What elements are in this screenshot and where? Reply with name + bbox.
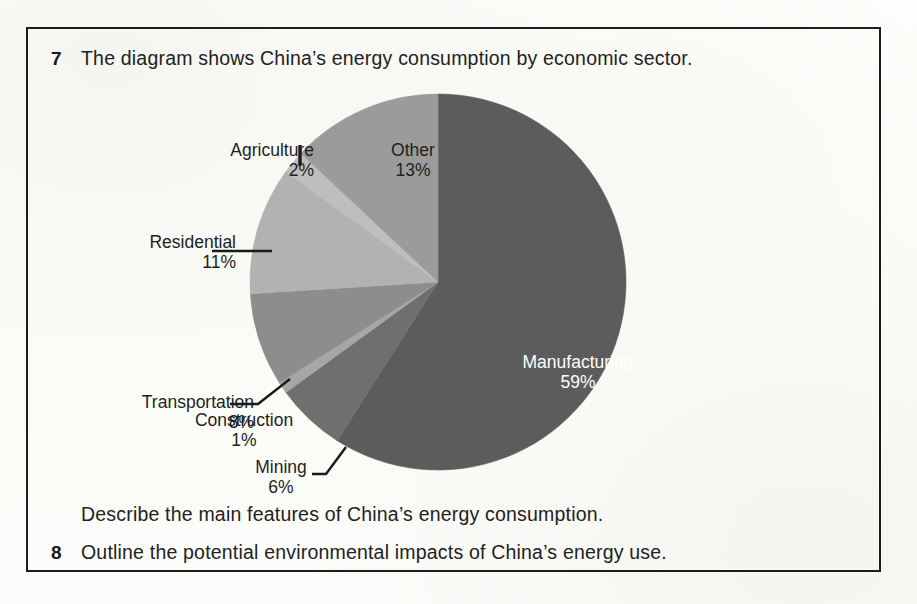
pie-label-mining-name: Mining (255, 457, 307, 477)
pie-label-construction-percent: 1% (176, 430, 312, 450)
pie-label-agriculture: Agriculture 2% (182, 140, 314, 181)
question-7-sub-row: Describe the main features of China’s en… (51, 503, 603, 526)
pie-label-residential-percent: 11% (100, 252, 236, 272)
question-8-row: 8 Outline the potential environmental im… (51, 541, 667, 564)
pie-label-other-name: Other (391, 140, 435, 160)
pie-label-other: Other 13% (366, 140, 460, 181)
pie-label-transportation-name: Transportation (142, 392, 254, 412)
pie-label-manufacturing-name: Manufacturing (523, 352, 634, 372)
pie-label-manufacturing-percent: 59% (492, 372, 664, 392)
question-7-sub-prompt: Describe the main features of China’s en… (81, 503, 603, 526)
pie-label-construction: Construction 1% (176, 410, 312, 451)
pie-label-agriculture-name: Agriculture (230, 140, 314, 160)
pie-label-residential-name: Residential (149, 232, 236, 252)
pie-label-other-percent: 13% (366, 160, 460, 180)
pie-label-mining-percent: 6% (226, 477, 336, 497)
pie-label-manufacturing: Manufacturing 59% (492, 352, 664, 393)
pie-label-construction-name: Construction (195, 410, 293, 430)
page-root: 7 The diagram shows China’s energy consu… (0, 0, 917, 604)
question-8-number: 8 (51, 542, 81, 564)
pie-chart-svg (26, 27, 881, 572)
pie-chart: Agriculture 2% Other 13% Residential 11%… (26, 27, 881, 572)
pie-label-residential: Residential 11% (100, 232, 236, 273)
pie-label-mining: Mining 6% (226, 457, 336, 498)
question-8-prompt: Outline the potential environmental impa… (81, 541, 667, 564)
pie-label-agriculture-percent: 2% (182, 160, 314, 180)
